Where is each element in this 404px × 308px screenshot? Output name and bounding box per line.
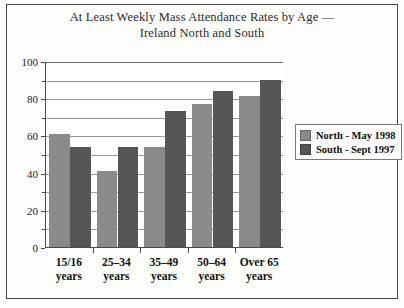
legend-label-south: South - Sept 1997 — [316, 144, 394, 155]
legend-swatch-south — [300, 144, 311, 155]
bar-south — [70, 147, 91, 247]
bar-south — [165, 111, 186, 247]
x-axis-tick — [235, 248, 236, 253]
chart-title: At Least Weekly Mass Attendance Rates by… — [30, 10, 374, 41]
y-axis-label: 60 — [27, 130, 38, 142]
y-axis-label: 40 — [27, 168, 38, 180]
legend-swatch-north — [300, 130, 311, 141]
chart-title-line-1: At Least Weekly Mass Attendance Rates by… — [30, 10, 374, 26]
y-axis-label: 20 — [27, 205, 38, 217]
x-axis-label-range: 25–34 — [102, 256, 131, 268]
bar-north — [49, 134, 70, 247]
bar-south — [118, 147, 139, 247]
x-axis-label-range: 35–49 — [150, 256, 179, 268]
y-axis-label: 80 — [27, 93, 38, 105]
x-axis-labels: 15/16years25–34years35–49years50–64years… — [45, 255, 283, 295]
x-axis-label-range: 15/16 — [56, 256, 82, 268]
x-axis-tick — [93, 248, 94, 253]
legend-item-north: North - May 1998 — [300, 128, 396, 142]
bar-south — [213, 91, 234, 247]
bar-south — [260, 80, 281, 247]
y-axis-label: 0 — [33, 242, 39, 254]
bar-north — [97, 171, 118, 247]
x-axis-label-unit: years — [229, 269, 289, 283]
x-axis-tick — [140, 248, 141, 253]
bar-north — [192, 104, 213, 247]
bar-series-group — [46, 62, 283, 247]
plot-area — [45, 62, 283, 248]
x-axis-ticks — [45, 248, 283, 254]
x-axis-label-range: 50–64 — [197, 256, 226, 268]
y-axis: 020406080100 — [0, 62, 45, 248]
chart-legend: North - May 1998 South - Sept 1997 — [295, 124, 402, 160]
legend-label-north: North - May 1998 — [316, 130, 396, 141]
y-axis-label: 100 — [22, 56, 39, 68]
legend-item-south: South - Sept 1997 — [300, 142, 396, 156]
x-axis-category: Over 65years — [229, 255, 289, 283]
x-axis-label-range: Over 65 — [240, 256, 279, 268]
x-axis-tick — [188, 248, 189, 253]
chart-figure: At Least Weekly Mass Attendance Rates by… — [0, 0, 404, 308]
bar-north — [144, 147, 165, 247]
bar-north — [239, 96, 260, 247]
chart-title-line-2: Ireland North and South — [30, 26, 374, 42]
